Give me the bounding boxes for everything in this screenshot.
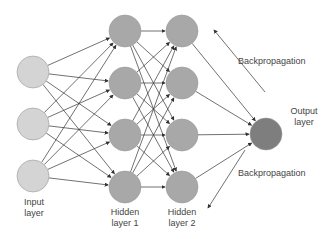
connection-arrow bbox=[46, 81, 111, 125]
connection-arrow bbox=[49, 178, 108, 185]
hidden-layer-2-label: Hidden layer 2 bbox=[160, 207, 204, 229]
hidden2-node bbox=[166, 171, 198, 203]
connection-arrow bbox=[49, 74, 108, 81]
connection-arrow bbox=[49, 126, 108, 133]
hidden-layer-1-label: Hidden layer 1 bbox=[103, 207, 147, 229]
connection-arrow bbox=[137, 94, 170, 124]
hidden1-node bbox=[109, 15, 141, 47]
label-line: Input bbox=[14, 197, 54, 208]
backprop-label-bottom: Backpropagation bbox=[238, 168, 306, 179]
input-node bbox=[17, 56, 49, 88]
label-line: Hidden bbox=[160, 207, 204, 218]
connection-arrow bbox=[137, 42, 170, 72]
label-line: Output bbox=[284, 106, 324, 117]
backprop-label-top: Backpropagation bbox=[238, 56, 306, 67]
hidden1-node bbox=[109, 171, 141, 203]
hidden1-node bbox=[109, 119, 141, 151]
input-node bbox=[17, 160, 49, 192]
connection-arrow bbox=[43, 84, 114, 173]
connection-arrow bbox=[192, 43, 255, 120]
hidden2-node bbox=[166, 15, 198, 47]
hidden1-node bbox=[109, 67, 141, 99]
hidden2-node bbox=[166, 67, 198, 99]
label-line: layer bbox=[14, 208, 54, 219]
connection-arrow bbox=[48, 38, 110, 66]
connection-arrow bbox=[137, 146, 170, 176]
input-layer-label: Input layer bbox=[14, 197, 54, 219]
connection-arrow bbox=[137, 146, 170, 176]
label-line: layer 2 bbox=[160, 218, 204, 229]
input-node bbox=[17, 108, 49, 140]
connection-arrow bbox=[44, 95, 113, 165]
label-line: layer bbox=[284, 117, 324, 128]
output-node bbox=[250, 118, 282, 150]
label-line: Hidden bbox=[103, 207, 147, 218]
connection-arrow bbox=[196, 91, 252, 125]
connection-arrow bbox=[137, 42, 170, 72]
connection-arrow bbox=[44, 43, 113, 113]
connection-arrow bbox=[198, 134, 249, 135]
output-layer-label: Output layer bbox=[284, 106, 324, 128]
hidden2-node bbox=[166, 119, 198, 151]
label-line: layer 1 bbox=[103, 218, 147, 229]
